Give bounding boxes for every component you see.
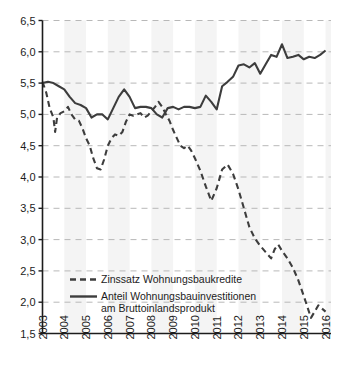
- chart-legend: Zinssatz WohnungsbaukrediteAnteil Wohnun…: [70, 273, 256, 314]
- legend-label: Zinssatz Wohnungsbaukredite: [101, 273, 242, 285]
- y-tick-label: 2,0: [20, 296, 35, 308]
- x-tick-label: 2009: [167, 315, 179, 339]
- legend-label: am Bruttoinlandsprodukt: [101, 302, 215, 314]
- x-tick-label: 2006: [102, 315, 114, 339]
- line-chart: 1,52,02,53,03,54,04,55,05,56,06,5 200320…: [0, 0, 345, 379]
- x-tick-label: 2007: [124, 315, 136, 339]
- y-tick-label: 4,0: [20, 171, 35, 183]
- chart-container: 1,52,02,53,03,54,04,55,05,56,06,5 200320…: [0, 0, 345, 379]
- x-tick-label: 2011: [211, 316, 223, 340]
- x-tick-label: 2004: [58, 315, 70, 339]
- y-tick-label: 6,5: [20, 15, 35, 27]
- x-tick-label: 2010: [189, 315, 201, 339]
- x-tick-label: 2014: [276, 315, 288, 339]
- y-tick-label: 5,5: [20, 77, 35, 89]
- y-axis-labels: 1,52,02,53,03,54,04,55,05,56,06,5: [20, 15, 35, 340]
- x-tick-label: 2005: [80, 315, 92, 339]
- y-tick-label: 2,5: [20, 265, 35, 277]
- y-tick-label: 6,0: [20, 46, 35, 58]
- x-tick-label: 2012: [232, 315, 244, 339]
- x-tick-label: 2008: [145, 315, 157, 339]
- y-tick-label: 5,0: [20, 108, 35, 120]
- x-tick-label: 2015: [298, 315, 310, 339]
- y-tick-label: 3,0: [20, 234, 35, 246]
- legend-label: Anteil Wohnungsbauinvestitionen: [101, 290, 256, 302]
- y-tick-label: 4,5: [20, 140, 35, 152]
- x-tick-label: 2016: [320, 315, 332, 339]
- x-axis-labels: 2003200420052006200720082009201020112012…: [37, 315, 332, 339]
- x-tick-label: 2013: [254, 315, 266, 339]
- y-tick-label: 3,5: [20, 202, 35, 214]
- y-tick-label: 1,5: [20, 328, 35, 340]
